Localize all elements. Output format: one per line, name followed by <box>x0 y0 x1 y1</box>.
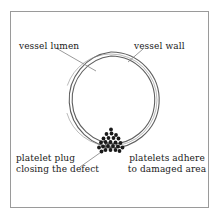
platelet-dot <box>121 146 125 150</box>
vessel-diagram <box>0 0 222 223</box>
platelet-dot <box>107 136 111 140</box>
platelet-dot <box>114 141 118 145</box>
label-platelet-plug-line-1: platelet plug <box>16 153 99 164</box>
vessel-wall-outline <box>69 52 159 148</box>
platelet-dot <box>110 132 114 136</box>
platelet-dot <box>116 145 120 149</box>
platelet-dot <box>106 144 110 148</box>
platelet-dot <box>111 144 115 148</box>
platelet-dot <box>109 128 113 132</box>
platelet-dot <box>119 141 123 145</box>
label-vessel-wall-text: vessel wall <box>134 41 185 52</box>
platelet-dot <box>117 137 121 141</box>
platelet-dot <box>100 150 104 154</box>
platelet-dot <box>109 148 113 152</box>
platelet-dot <box>104 148 108 152</box>
platelet-dot <box>112 136 116 140</box>
platelet-cluster <box>97 128 124 154</box>
platelet-dot <box>102 137 106 141</box>
label-platelet-plug-line-2: closing the defect <box>16 164 99 175</box>
label-platelet-plug: platelet plug closing the defect <box>16 153 99 175</box>
label-vessel-wall: vessel wall <box>134 41 185 52</box>
platelet-dot <box>118 149 122 153</box>
label-platelets-adhere-line-1: platelets adhere <box>127 153 207 164</box>
platelet-dot <box>104 140 108 144</box>
platelet-dot <box>114 148 118 152</box>
label-platelets-adhere: platelets adhere to damaged area <box>127 153 207 175</box>
platelet-dot <box>99 141 103 145</box>
platelet-dot <box>101 145 105 149</box>
platelet-dot <box>97 146 101 150</box>
label-platelets-adhere-line-2: to damaged area <box>127 164 207 175</box>
platelet-dot <box>114 133 118 137</box>
figure-page: vessel lumen vessel wall platelet plug c… <box>0 0 222 223</box>
platelet-dot <box>109 140 113 144</box>
platelet-dot <box>105 132 109 136</box>
label-vessel-lumen-text: vessel lumen <box>19 41 79 52</box>
label-vessel-lumen: vessel lumen <box>19 41 79 52</box>
